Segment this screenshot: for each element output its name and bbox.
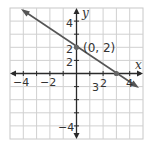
y-axis-arrow-up-icon (74, 8, 80, 14)
y-tick-label-neg4: −4 (58, 122, 74, 133)
x-axis-label: x (135, 59, 142, 71)
y-axis-label: y (82, 7, 89, 19)
x-tick-label-neg2: −2 (40, 77, 56, 88)
x-tick-label-3: 3 (92, 82, 99, 93)
graph-line (24, 11, 136, 86)
point-x-intercept (114, 71, 119, 76)
y-axis-arrow-down-icon (74, 133, 80, 139)
x-tick-label-4: 4 (126, 78, 133, 89)
line-arrow-upper-left-icon (21, 9, 30, 17)
x-tick-label-2: 2 (100, 78, 107, 89)
x-tick-label-neg4: −4 (13, 77, 29, 88)
y-tick-label-4: 4 (66, 18, 73, 29)
y-tick-label-2b: 2 (66, 57, 73, 68)
point-y-intercept (74, 45, 79, 50)
y-tick-label-2a: 2 (66, 44, 73, 55)
point-label: (0, 2) (83, 42, 115, 54)
